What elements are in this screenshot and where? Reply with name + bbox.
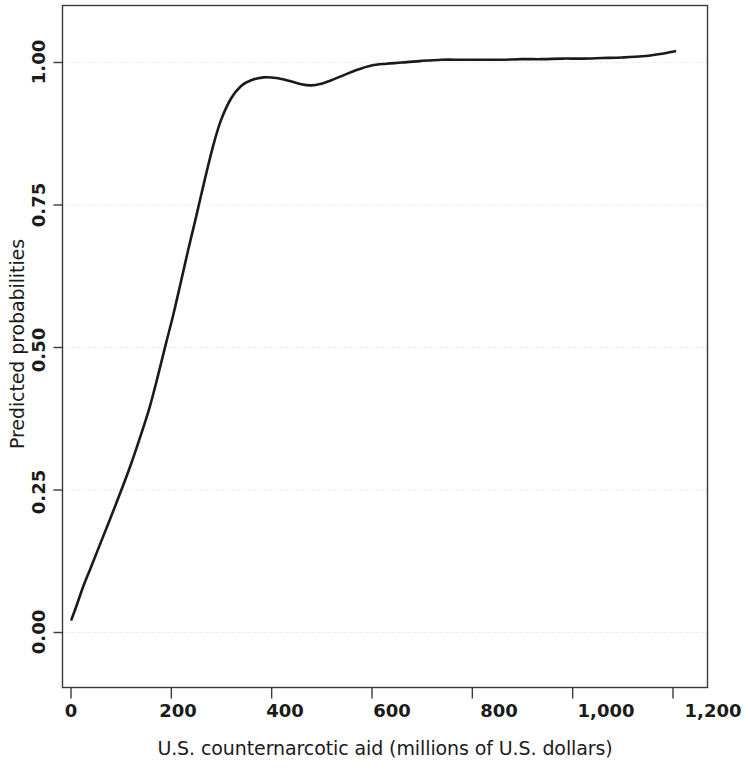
y-axis-ticks bbox=[54, 63, 63, 633]
x-tick-label-1: 0 bbox=[26, 700, 116, 721]
x-tick-label-7: 1,200 bbox=[668, 700, 746, 721]
y-tick-label-2: 0.75 bbox=[28, 173, 48, 237]
x-axis-ticks bbox=[71, 688, 673, 699]
x-tick-label-2: 200 bbox=[133, 700, 223, 721]
x-tick-label-5: 800 bbox=[454, 700, 544, 721]
y-tick-label-1: 1.00 bbox=[28, 30, 48, 94]
y-tick-label-5: 0.00 bbox=[28, 600, 48, 664]
gridlines bbox=[63, 63, 708, 633]
x-axis-title: U.S. counternarcotic aid (millions of U.… bbox=[62, 737, 708, 759]
x-tick-label-6: 1,000 bbox=[561, 700, 651, 721]
y-tick-label-3: 0.50 bbox=[28, 318, 48, 382]
x-tick-label-4: 600 bbox=[347, 700, 437, 721]
data-line-predicted-probability bbox=[72, 51, 676, 619]
plot-frame bbox=[63, 6, 708, 688]
x-tick-label-3: 400 bbox=[240, 700, 330, 721]
y-tick-label-4: 0.25 bbox=[28, 460, 48, 524]
